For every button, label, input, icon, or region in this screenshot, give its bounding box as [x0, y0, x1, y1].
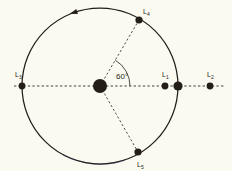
lagrange-label-subscript: 2 — [211, 74, 214, 80]
background — [0, 0, 232, 171]
lagrange-label-subscript: 1 — [166, 74, 169, 80]
orbiting-body — [173, 81, 182, 90]
lagrange-label-subscript: 5 — [141, 164, 144, 170]
angle-label: 60° — [116, 72, 128, 81]
central-body — [93, 79, 107, 93]
lagrange-point-l3 — [19, 83, 26, 90]
lagrange-point-l1 — [162, 83, 169, 90]
lagrange-label-subscript: 4 — [147, 11, 150, 17]
lagrange-point-l5 — [134, 148, 141, 155]
lagrange-label-subscript: 3 — [19, 74, 22, 80]
diagram-canvas: L1L2L3L4L5 60° — [0, 0, 232, 171]
lagrange-point-l2 — [207, 83, 214, 90]
lagrange-point-l4 — [135, 16, 142, 23]
lagrange-points-diagram: L1L2L3L4L5 60° — [0, 0, 232, 171]
